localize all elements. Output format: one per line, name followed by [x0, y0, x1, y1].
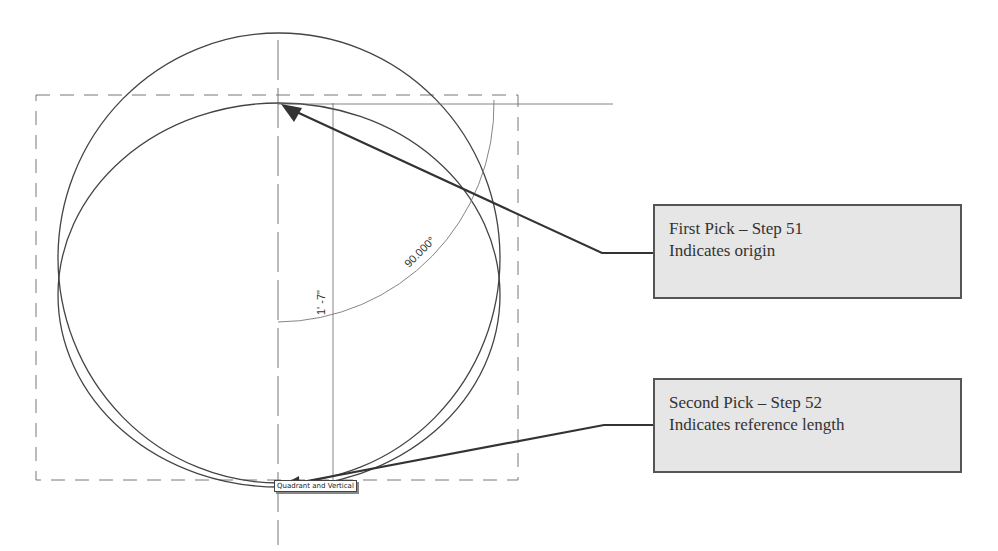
callout-second-pick-desc: Indicates reference length — [669, 414, 960, 436]
callout-second-pick-title: Second Pick – Step 52 — [669, 392, 960, 414]
callout-first-pick: First Pick – Step 51 Indicates origin — [653, 204, 962, 299]
dashed-selection-box — [36, 95, 518, 480]
angular-dimension-text: 90.000° — [402, 234, 437, 269]
linear-dimension-text: 1' -7" — [315, 290, 327, 315]
snap-tooltip: Quadrant and Vertical — [274, 480, 357, 492]
leader-line-first-pick — [288, 108, 653, 253]
upper-circle — [58, 33, 500, 483]
callout-second-pick: Second Pick – Step 52 Indicates referenc… — [653, 378, 962, 473]
leader-line-second-pick — [286, 425, 653, 485]
callout-first-pick-desc: Indicates origin — [669, 240, 960, 262]
lower-circle — [58, 103, 500, 487]
callout-first-pick-title: First Pick – Step 51 — [669, 218, 960, 240]
arrowhead-first-pick — [281, 104, 302, 122]
angular-dimension-arc — [278, 100, 494, 322]
